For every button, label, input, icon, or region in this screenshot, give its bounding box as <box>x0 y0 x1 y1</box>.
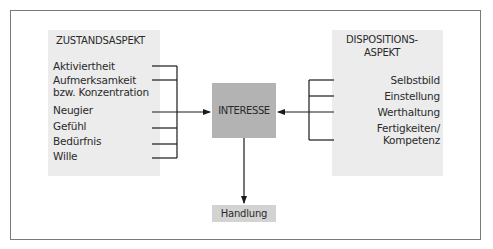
right-bracket <box>278 80 334 140</box>
connector-lines <box>0 0 493 249</box>
left-bracket <box>152 66 210 158</box>
